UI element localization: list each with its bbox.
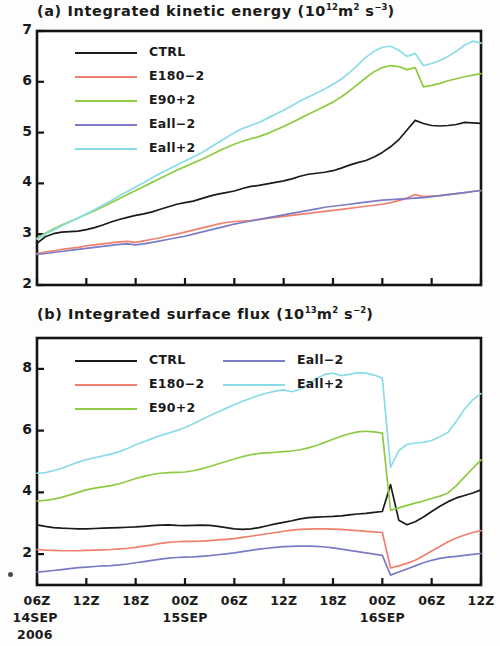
legend-label-eall-2: Eall+2 (149, 140, 196, 155)
x-axis-tick-label: 00Z (369, 593, 396, 608)
x-axis-tick-label: 18Z (320, 593, 347, 608)
legend-swatch-eall-2 (223, 360, 285, 362)
legend-label-eall-2: Eall−2 (297, 352, 344, 367)
x-axis-tick-label: 06Z (24, 593, 51, 608)
y-axis-label: 6 (10, 421, 32, 437)
x-axis-tick-label: 06Z (221, 593, 248, 608)
legend-label-e180-2: E180−2 (149, 376, 205, 391)
legend-label-eall-2: Eall−2 (149, 116, 196, 131)
y-axis-label: 8 (10, 359, 32, 375)
y-axis-label: 4 (10, 482, 32, 498)
legend-swatch-ctrl (75, 52, 137, 54)
legend-label-ctrl: CTRL (149, 352, 186, 367)
y-axis-label: 2 (10, 275, 32, 291)
legend-swatch-ctrl (75, 360, 137, 362)
y-axis-label: 7 (10, 21, 32, 37)
y-axis-label: 5 (10, 123, 32, 139)
x-axis-date-label: 16SEP (360, 610, 405, 625)
legend-label-e180-2: E180−2 (149, 68, 205, 83)
y-axis-label: 6 (10, 72, 32, 88)
x-axis-date-label: 14SEP (13, 610, 58, 625)
legend-swatch-e90-2 (75, 100, 137, 102)
x-axis-tick-label: 12Z (468, 593, 495, 608)
y-axis-label: 3 (10, 224, 32, 240)
x-axis-tick-label: 12Z (270, 593, 297, 608)
y-axis-label: 4 (10, 173, 32, 189)
legend-label-eall-2: Eall+2 (297, 376, 344, 391)
scan-artifact-speck (8, 572, 13, 577)
legend-swatch-e90-2 (75, 408, 137, 410)
y-axis-label: 2 (10, 544, 32, 560)
x-axis-tick-label: 00Z (172, 593, 199, 608)
panel-b-plot (0, 0, 500, 646)
plot-frame (37, 338, 481, 585)
legend-swatch-eall-2 (223, 384, 285, 386)
x-axis-tick-label: 18Z (122, 593, 149, 608)
legend-swatch-e180-2 (75, 76, 137, 78)
x-axis-tick-label: 06Z (418, 593, 445, 608)
legend-label-ctrl: CTRL (149, 44, 186, 59)
x-axis-date-label: 15SEP (163, 610, 208, 625)
figure-root: (a) Integrated kinetic energy (1012m2 s−… (0, 0, 500, 646)
legend-label-e90-2: E90+2 (149, 400, 196, 415)
legend-swatch-e180-2 (75, 384, 137, 386)
legend-label-e90-2: E90+2 (149, 92, 196, 107)
legend-swatch-eall-2 (75, 124, 137, 126)
x-axis-tick-label: 12Z (73, 593, 100, 608)
x-axis-date-label: 2006 (17, 627, 53, 642)
legend-swatch-eall-2 (75, 148, 137, 150)
